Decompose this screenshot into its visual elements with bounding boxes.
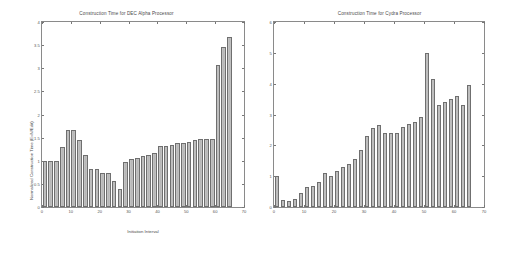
cydra-x-tick-label: 50 [422, 207, 427, 214]
bar [204, 139, 209, 207]
bar [293, 199, 298, 207]
cydra-x-tick-label: 60 [452, 207, 457, 214]
bar [118, 189, 123, 207]
dec-alpha-y-tick-mark [242, 184, 244, 185]
bar [353, 159, 358, 207]
cydra-x-tick-mark [364, 22, 365, 24]
bar [152, 153, 157, 207]
cydra-x-tick-mark [394, 22, 395, 24]
dec-alpha-x-tick-mark [244, 205, 245, 207]
cydra-x-tick-label: 40 [392, 207, 397, 214]
cydra-y-tick-mark [482, 145, 484, 146]
dec-alpha-y-tick-label: 1.5 [34, 135, 42, 140]
bar [425, 53, 430, 207]
dec-alpha-x-tick-mark [129, 22, 130, 24]
dec-alpha-x-tick-label: 40 [155, 207, 160, 214]
bar [311, 186, 316, 207]
cydra-x-tick-mark [424, 22, 425, 24]
cydra-x-tick-mark [394, 205, 395, 207]
bar [329, 176, 334, 207]
bar [389, 133, 394, 207]
cydra-x-tick-mark [364, 205, 365, 207]
bar [455, 96, 460, 207]
bar [413, 122, 418, 207]
bar [227, 37, 232, 207]
bar [461, 105, 466, 207]
cydra-y-tick-mark [482, 176, 484, 177]
bar [71, 130, 76, 207]
bar [216, 65, 221, 207]
cydra-x-tick-label: 20 [332, 207, 337, 214]
bar [100, 173, 105, 207]
bar [198, 139, 203, 207]
bar [89, 169, 94, 207]
bar [449, 99, 454, 207]
dec-alpha-x-tick-mark [157, 205, 158, 207]
bar [77, 140, 82, 207]
dec-alpha-y-tick-mark [242, 138, 244, 139]
bar [281, 200, 286, 207]
cydra-y-tick-mark [274, 84, 276, 85]
bar [371, 128, 376, 207]
dec-alpha-x-tick-mark [129, 205, 130, 207]
dec-alpha-x-tick-mark [71, 205, 72, 207]
plot-area-dec-alpha: 00.511.522.533.54010203040506070 [41, 21, 245, 208]
cydra-y-tick-mark [482, 84, 484, 85]
dec-alpha-x-tick-mark [71, 22, 72, 24]
bar-series-cydra [274, 22, 484, 207]
bar [377, 125, 382, 207]
dec-alpha-y-tick-label: 2.5 [34, 89, 42, 94]
bar [54, 161, 59, 207]
dec-alpha-y-tick-mark [242, 115, 244, 116]
bar [335, 171, 340, 207]
bar [187, 142, 192, 207]
cydra-x-tick-mark [274, 205, 275, 207]
cydra-x-tick-mark [454, 22, 455, 24]
cydra-x-tick-mark [424, 205, 425, 207]
bar [193, 140, 198, 207]
dec-alpha-y-tick-mark [42, 91, 44, 92]
bar-series-dec-alpha [42, 22, 244, 207]
bar [323, 173, 328, 207]
cydra-x-tick-mark [484, 22, 485, 24]
bar [158, 146, 163, 207]
dec-alpha-x-tick-label: 50 [184, 207, 189, 214]
bar [299, 193, 304, 207]
bar [95, 169, 100, 207]
cydra-x-tick-mark [334, 22, 335, 24]
dec-alpha-x-tick-label: 60 [213, 207, 218, 214]
bar [135, 158, 140, 207]
dec-alpha-x-tick-mark [186, 22, 187, 24]
plot-area-cydra: 0123456010203040506070 [273, 21, 485, 208]
dec-alpha-x-tick-mark [157, 22, 158, 24]
cydra-y-tick-mark [482, 53, 484, 54]
dec-alpha-y-tick-mark [42, 184, 44, 185]
cydra-x-tick-mark [304, 22, 305, 24]
cydra-x-tick-mark [304, 205, 305, 207]
cydra-y-tick-mark [482, 115, 484, 116]
bar [112, 181, 117, 207]
dec-alpha-y-tick-mark [242, 91, 244, 92]
cydra-x-tick-mark [334, 205, 335, 207]
bar [419, 117, 424, 207]
chart-panel-dec-alpha: Construction Time for DEC Alpha Processo… [0, 0, 253, 260]
bar [275, 176, 280, 207]
cydra-x-tick-label: 70 [482, 207, 487, 214]
dec-alpha-y-tick-mark [242, 161, 244, 162]
dec-alpha-x-tick-mark [100, 205, 101, 207]
dec-alpha-y-tick-label: 0.5 [34, 181, 42, 186]
bar [181, 143, 186, 207]
dec-alpha-y-tick-mark [42, 115, 44, 116]
cydra-x-tick-label: 10 [302, 207, 307, 214]
dec-alpha-x-tick-label: 20 [97, 207, 102, 214]
dec-alpha-y-tick-mark [242, 45, 244, 46]
bar [221, 47, 226, 207]
dec-alpha-x-tick-mark [100, 22, 101, 24]
cydra-x-tick-mark [274, 22, 275, 24]
chart-title-dec-alpha: Construction Time for DEC Alpha Processo… [0, 11, 253, 16]
bar [431, 79, 436, 207]
dec-alpha-x-tick-label: 10 [69, 207, 74, 214]
dec-alpha-x-tick-mark [215, 205, 216, 207]
bar [48, 161, 53, 207]
dec-alpha-x-tick-mark [42, 205, 43, 207]
